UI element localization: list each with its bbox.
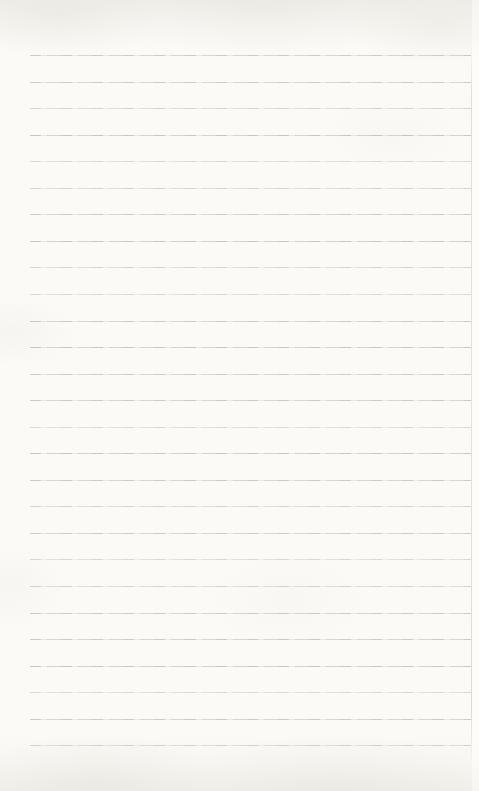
ruled-line bbox=[30, 108, 471, 109]
ruled-line bbox=[30, 267, 471, 268]
ruled-line bbox=[30, 480, 471, 481]
ruled-line bbox=[30, 188, 471, 189]
ruled-line bbox=[30, 533, 471, 534]
ruled-line bbox=[30, 241, 471, 242]
ruled-line bbox=[30, 692, 471, 693]
ruled-line bbox=[30, 453, 471, 454]
ruled-line bbox=[30, 719, 471, 720]
ruled-line bbox=[30, 427, 471, 428]
ruled-line bbox=[30, 400, 471, 401]
ruled-line bbox=[30, 294, 471, 295]
ruled-line bbox=[30, 55, 471, 56]
ruled-lines bbox=[0, 0, 479, 791]
notebook-paper bbox=[0, 0, 479, 791]
ruled-line bbox=[30, 639, 471, 640]
ruled-line bbox=[30, 586, 471, 587]
ruled-line bbox=[30, 559, 471, 560]
ruled-line bbox=[30, 745, 471, 746]
ruled-line bbox=[30, 82, 471, 83]
ruled-line bbox=[30, 161, 471, 162]
ruled-line bbox=[30, 135, 471, 136]
ruled-line bbox=[30, 666, 471, 667]
ruled-line bbox=[30, 374, 471, 375]
ruled-line bbox=[30, 506, 471, 507]
ruled-line bbox=[30, 347, 471, 348]
ruled-line bbox=[30, 613, 471, 614]
ruled-line bbox=[30, 321, 471, 322]
ruled-line bbox=[30, 214, 471, 215]
